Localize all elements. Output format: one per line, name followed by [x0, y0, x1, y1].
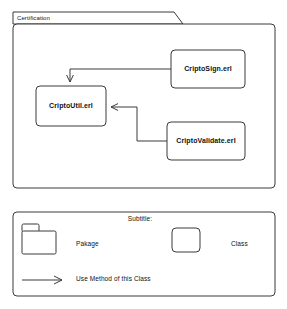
legend-label-pakage: Pakage [76, 241, 99, 248]
legend-label-class: Class [231, 241, 248, 248]
diagram-vector-layer [0, 0, 287, 309]
class-label-criptosign: CriptoSign.erl [184, 65, 232, 72]
package-title: Certification [17, 15, 50, 21]
rounded-rect-icon [172, 228, 200, 252]
class-label-criptovalidate: CriptoValidate.erl [176, 137, 235, 144]
diagram-canvas: Certification CriptoSign.erl CriptoUtil.… [0, 0, 287, 309]
legend-title: Subtitle: [128, 216, 152, 223]
legend-label-use-method: Use Method of this Class [76, 276, 151, 283]
class-label-criptoutil: CriptoUtil.erl [49, 102, 93, 109]
